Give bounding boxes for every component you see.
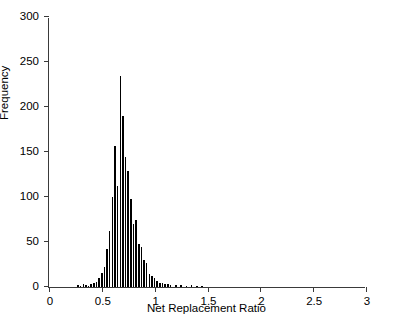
histogram-bar [170,285,172,287]
histogram-bar [175,285,177,287]
x-tick: 1.5 [208,287,209,292]
histogram-bar [83,284,85,287]
histogram-bar [125,157,127,288]
y-tick-label: 100 [20,191,39,203]
histogram-bar [120,76,122,288]
y-tick-label: 300 [20,11,39,23]
histogram-bar [143,260,145,287]
histogram-bar [98,278,100,287]
histogram-bar [149,274,151,287]
y-tick: 100 [44,196,49,197]
histogram-bar [162,283,164,287]
histogram-bar [167,284,169,287]
histogram-bar [154,278,156,287]
x-tick: 0 [49,287,50,292]
histogram-bar [196,286,198,287]
x-tick: 1 [155,287,156,292]
plot-area: 050100150200250300 00.511.522.53 [48,18,365,288]
y-tick: 250 [44,61,49,62]
y-tick-label: 0 [33,281,39,293]
histogram-bar [104,267,106,287]
histogram-bar [114,146,116,287]
histogram-bar [180,285,182,287]
histogram-bar [96,282,98,287]
y-tick: 300 [44,16,49,17]
histogram-bar [85,285,87,287]
histogram-bar [191,285,193,287]
x-tick: 3 [366,287,367,292]
histogram-bar [186,286,188,287]
y-axis-label: Frequency [0,66,11,120]
x-tick: 2 [260,287,261,292]
histogram-bar [127,171,129,287]
histogram-bar [146,263,148,287]
histogram-bar [138,244,140,287]
x-tick: 0.5 [102,287,103,292]
histogram-bar [130,199,132,287]
y-tick-label: 200 [20,101,39,113]
histogram-bar [156,281,158,287]
y-tick-label: 50 [26,236,39,248]
histogram-bar [93,283,95,287]
y-tick: 200 [44,106,49,107]
x-tick: 2.5 [313,287,314,292]
histogram-bar [151,276,153,287]
histogram-bar [106,249,108,287]
y-tick: 50 [44,241,49,242]
histogram-bar [201,286,203,287]
bar-series [49,18,365,287]
histogram-bar [80,286,82,287]
y-tick-label: 150 [20,146,39,158]
histogram-bar [117,186,119,287]
histogram-bar [141,247,143,288]
histogram-bar [90,284,92,287]
histogram-bar [109,231,111,287]
histogram-bar [164,284,166,287]
histogram-bar [77,285,79,287]
histogram-bar [122,116,124,287]
histogram-bar [112,197,114,287]
histogram-bar [159,283,161,288]
histogram-bar [135,220,137,288]
histogram-bar [133,224,135,287]
histogram-bar [101,273,103,287]
y-tick-label: 250 [20,56,39,68]
x-axis-label: Net Replacement Ratio [48,303,365,315]
histogram-bar [88,286,90,287]
histogram-figure: Frequency 050100150200250300 00.511.522.… [0,0,397,324]
y-tick: 150 [44,151,49,152]
